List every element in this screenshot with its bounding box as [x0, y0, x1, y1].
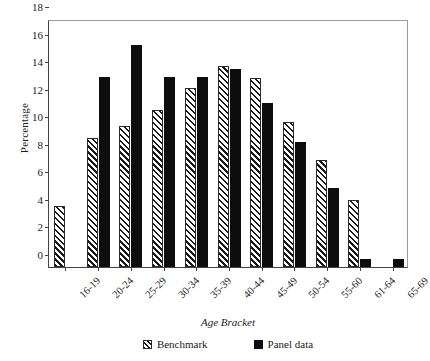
bar-50-54-panel: [295, 142, 306, 267]
x-axis-tick-mark: [294, 267, 295, 271]
bar-45-49-panel: [262, 103, 273, 267]
bar-20-24-benchmark: [87, 138, 98, 268]
bar-55-60-panel: [328, 188, 339, 267]
y-axis-tick-label: 16: [32, 29, 49, 41]
x-axis-tick-mark: [327, 267, 328, 271]
x-axis-tick-label: 65-69: [405, 275, 430, 300]
x-axis-tick-mark: [196, 267, 197, 271]
x-axis-tick-label: 45-49: [274, 275, 299, 300]
bar-25-29-benchmark: [119, 126, 130, 267]
y-axis-tick-label: 10: [32, 111, 49, 123]
bar-20-24-panel: [99, 77, 110, 267]
x-axis-tick-label: 61-64: [372, 275, 397, 300]
bar-40-44-panel: [230, 69, 241, 267]
x-axis-tick-mark: [360, 267, 361, 271]
y-axis-title: Percentage: [18, 78, 30, 178]
bar-65-69-panel: [393, 259, 404, 267]
x-axis-tick-label: 55-60: [339, 275, 364, 300]
bar-61-64-panel: [360, 259, 371, 267]
bar-16-19-benchmark: [54, 206, 65, 267]
x-axis-tick-label: 35-39: [208, 275, 233, 300]
x-axis-tick-mark: [131, 267, 132, 271]
legend-item-panel-data[interactable]: Panel data: [254, 338, 314, 350]
legend-item-label: Panel data: [268, 338, 314, 350]
x-axis-title: Age Bracket: [48, 316, 408, 328]
x-axis-tick-mark: [262, 267, 263, 271]
y-axis-tick-label: 4: [38, 194, 50, 206]
x-axis-tick-label: 30-34: [176, 275, 201, 300]
bar-35-39-benchmark: [185, 88, 196, 267]
y-axis-tick-label: 12: [32, 84, 49, 96]
hatched-swatch-icon: [143, 340, 152, 349]
x-axis-tick-label: 40-44: [241, 275, 266, 300]
y-axis-tick-label: 8: [38, 139, 50, 151]
bar-45-49-benchmark: [250, 78, 261, 267]
bar-30-34-panel: [164, 77, 175, 267]
y-axis-tick-label: 18: [32, 1, 49, 13]
legend-item-benchmark[interactable]: Benchmark: [143, 338, 208, 350]
x-axis-tick-label: 50-54: [307, 275, 332, 300]
legend-item-label: Benchmark: [157, 338, 208, 350]
y-axis-tick-label: 2: [38, 221, 50, 233]
plot-area: 024681012141618 16-1920-2425-2930-3435-3…: [48, 20, 408, 268]
x-axis-tick-label: 16-19: [78, 275, 103, 300]
bar-61-64-benchmark: [348, 200, 359, 268]
bar-50-54-benchmark: [283, 122, 294, 267]
x-axis-tick-mark: [65, 267, 66, 271]
x-axis-tick-mark: [164, 267, 165, 271]
bar-35-39-panel: [197, 77, 208, 267]
x-axis-tick-mark: [98, 267, 99, 271]
y-axis-tick-label: 0: [38, 249, 50, 261]
x-axis-tick-mark: [393, 267, 394, 271]
bar-55-60-benchmark: [316, 160, 327, 267]
y-axis-tick-label: 6: [38, 166, 50, 178]
bar-25-29-panel: [131, 45, 142, 267]
x-axis-tick-label: 25-29: [143, 275, 168, 300]
y-axis-tick-label: 14: [32, 56, 49, 68]
bar-40-44-benchmark: [218, 66, 229, 267]
bar-30-34-benchmark: [152, 110, 163, 267]
x-axis-tick-label: 20-24: [110, 275, 135, 300]
chart-legend: BenchmarkPanel data: [48, 338, 408, 350]
x-axis-tick-mark: [229, 267, 230, 271]
solid-swatch-icon: [254, 340, 263, 349]
